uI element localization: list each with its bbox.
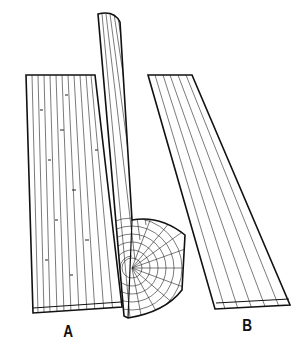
board-b	[148, 75, 290, 309]
board-a	[26, 75, 122, 313]
half-log	[82, 13, 188, 320]
label-board-a: A	[63, 322, 73, 342]
label-board-b: B	[242, 316, 252, 336]
wood-illustration	[0, 0, 300, 351]
